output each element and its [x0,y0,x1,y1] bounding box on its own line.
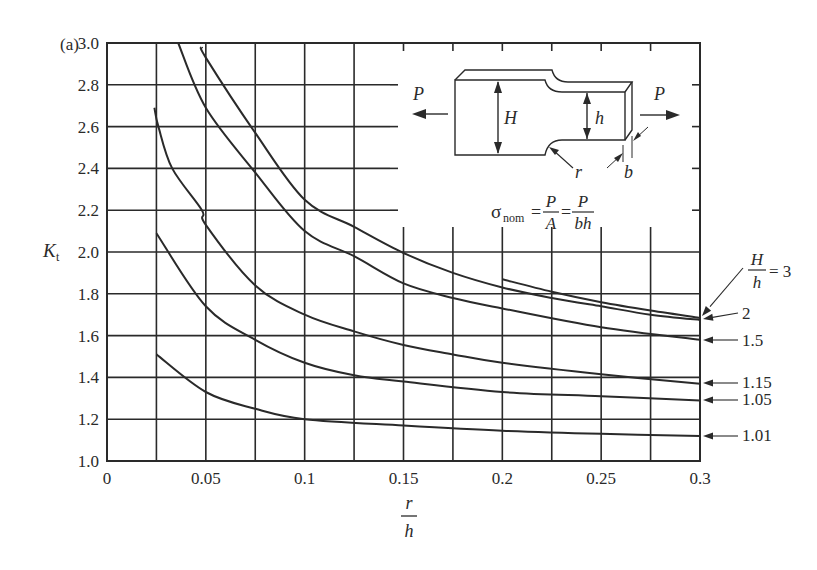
y-axis-label: K t [42,240,60,264]
y-tick-label: 2.8 [78,76,99,95]
y-axis-label-sub: t [56,250,60,264]
inset-b-label: b [624,162,633,182]
y-tick-label: 3.0 [78,34,99,53]
y-axis-label-main: K [42,240,57,261]
x-tick-label: 0.15 [389,469,419,488]
x-axis-label: r h [401,493,417,541]
x-tick-label: 0.3 [689,469,710,488]
legend-arrow-icon [702,306,711,316]
y-tick-label: 2.0 [78,243,99,262]
x-tick-label: 0 [103,469,112,488]
stress-concentration-chart: 00.050.10.150.20.250.31.01.21.41.61.82.0… [0,0,817,570]
x-tick-label: 0.25 [586,469,616,488]
formula-num2: P [577,192,588,211]
legend-label-1-01: 1.01 [742,426,772,445]
formula-sigma: σ [491,201,501,222]
x-tick-label: 0.05 [191,469,221,488]
y-tick-label: 1.8 [78,285,99,304]
panel-label: (a) [60,35,79,54]
formula-num1: P [545,192,556,211]
legend-label-3: = 3 [769,262,791,281]
formula-sub: nom [503,211,525,225]
inset-r-label: r [575,162,583,182]
legend-arrow-icon [703,433,713,440]
x-axis-label-denominator: h [405,521,414,541]
legend-arrow-icon [703,380,713,387]
y-tick-label: 2.4 [78,159,100,178]
legend-label-2: 2 [742,304,751,323]
legend-arrow-icon [703,337,713,344]
formula-den2: bh [575,214,592,233]
legend-fraction-numerator: H [750,250,765,269]
y-tick-label: 1.0 [78,452,99,471]
legend-labels: Hh= 321.51.151.051.01 [702,250,791,445]
formula-den1: A [545,214,557,233]
curve-Hh-1.01 [156,354,700,436]
y-tick-label: 1.6 [78,327,99,346]
formula-eq2: = [561,202,571,222]
legend-arrow-icon [703,314,713,321]
legend-label-1-05: 1.05 [742,390,772,409]
legend-fraction-denominator: h [753,273,762,292]
formula-eq1: = [531,202,541,222]
x-tick-label: 0.2 [492,469,513,488]
legend-arrow-icon [703,397,713,404]
y-tick-label: 2.2 [78,201,99,220]
x-axis-label-numerator: r [405,493,413,513]
x-tick-label: 0.1 [294,469,315,488]
legend-label-1-5: 1.5 [742,331,763,350]
y-tick-label: 1.4 [78,368,100,387]
inset-right-load-label: P [653,84,665,104]
inset-left-load-label: P [412,84,424,104]
inset-h-label: h [595,108,604,128]
y-tick-label: 2.6 [78,118,99,137]
inset-H-label: H [503,108,518,128]
y-tick-label: 1.2 [78,410,99,429]
